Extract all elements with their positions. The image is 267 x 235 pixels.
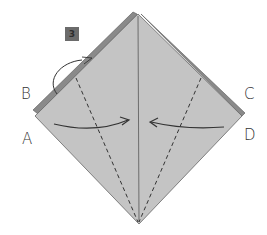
origami-fold-diagram (0, 0, 267, 235)
label-a: A (22, 130, 32, 148)
step-number-badge: 3 (65, 27, 79, 41)
label-b: B (21, 85, 31, 103)
label-d: D (244, 126, 256, 144)
label-c: C (244, 85, 254, 103)
